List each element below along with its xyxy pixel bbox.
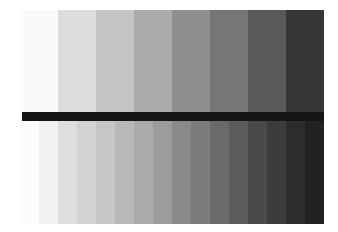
gray-band — [248, 10, 286, 112]
gray-band — [134, 121, 153, 224]
gray-band — [305, 121, 324, 224]
gray-band — [191, 121, 210, 224]
black-divider-bar — [22, 112, 324, 121]
gray-band — [286, 10, 324, 112]
gray-band — [267, 121, 286, 224]
gray-band — [229, 121, 248, 224]
gray-band — [134, 10, 172, 112]
gray-band — [58, 121, 77, 224]
gray-band — [20, 10, 58, 112]
gray-band — [286, 121, 305, 224]
gray-band — [248, 121, 267, 224]
top-step-wedge — [20, 10, 324, 112]
gray-band — [210, 10, 248, 112]
gray-band — [39, 121, 58, 224]
gray-band — [58, 10, 96, 112]
gray-band — [153, 121, 172, 224]
gray-band — [77, 121, 96, 224]
gray-band — [210, 121, 229, 224]
gray-band — [96, 121, 115, 224]
gray-band — [96, 10, 134, 112]
gray-band — [20, 121, 39, 224]
bottom-step-wedge — [20, 121, 324, 224]
gray-band — [172, 121, 191, 224]
gray-band — [172, 10, 210, 112]
gray-band — [115, 121, 134, 224]
